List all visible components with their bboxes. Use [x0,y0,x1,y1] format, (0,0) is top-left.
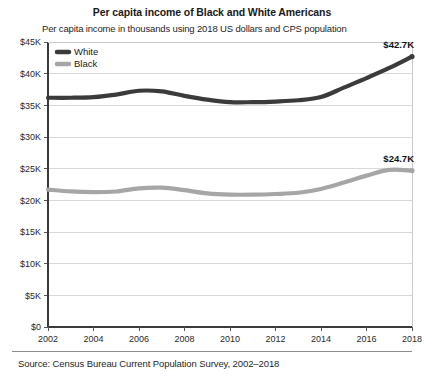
series-line-white [48,57,412,103]
footer-divider [12,351,412,352]
source-note: Source: Census Bureau Current Population… [18,358,279,369]
x-axis-tick-label: 2014 [311,334,331,344]
y-axis-tick-label: $5K [25,291,41,301]
series-end-label-white: $42.7K [383,39,414,50]
chart-figure: Per capita income of Black and White Ame… [0,0,424,382]
x-axis-tick-label: 2008 [174,334,194,344]
x-axis-tick-label: 2012 [265,334,285,344]
y-axis-tick-label: $25K [20,164,41,174]
x-axis-tick-label: 2004 [83,334,103,344]
line-chart-plot: $0$5K$10K$15K$20K$25K$30K$35K$40K$45K200… [0,0,424,355]
series-line-black [48,170,412,195]
x-axis-tick-label: 2010 [220,334,240,344]
legend-label-black: Black [74,58,97,69]
y-axis-tick-label: $45K [20,37,41,47]
y-axis-tick-label: $40K [20,69,41,79]
y-axis-tick-label: $15K [20,227,41,237]
y-axis-tick-label: $20K [20,196,41,206]
x-axis-tick-label: 2018 [402,334,422,344]
y-axis-tick-label: $0 [31,322,41,332]
y-axis-tick-label: $10K [20,259,41,269]
y-axis-tick-label: $35K [20,101,41,111]
x-axis-tick-label: 2002 [38,334,58,344]
x-axis-tick-label: 2006 [129,334,149,344]
x-axis-tick-label: 2016 [356,334,376,344]
y-axis-tick-label: $30K [20,132,41,142]
series-endpoint-white [409,54,414,59]
series-endpoint-black [409,168,414,173]
legend-label-white: White [74,46,98,57]
series-end-label-black: $24.7K [383,153,414,164]
